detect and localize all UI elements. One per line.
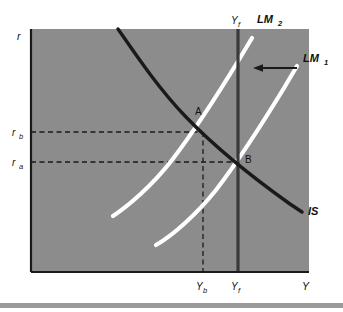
is-lm-figure-root: r Y r b r a Y b Y f Y f LM — [0, 0, 343, 312]
y-axis-label: r — [17, 30, 21, 42]
is-lm-diagram-svg: r Y r b r a Y b Y f Y f LM — [0, 0, 343, 312]
svg-text:a: a — [19, 162, 23, 171]
x-axis-label: Y — [302, 280, 310, 292]
svg-text:b: b — [19, 132, 23, 141]
svg-text:LM: LM — [257, 13, 274, 25]
point-label-b: A — [195, 106, 202, 117]
svg-text:b: b — [203, 286, 207, 295]
point-label-a: B — [245, 154, 252, 165]
svg-text:2: 2 — [277, 19, 283, 28]
svg-text:1: 1 — [324, 58, 328, 67]
footer-divider-bar — [0, 303, 343, 308]
is-label: IS — [308, 205, 319, 217]
svg-text:LM: LM — [303, 52, 320, 64]
